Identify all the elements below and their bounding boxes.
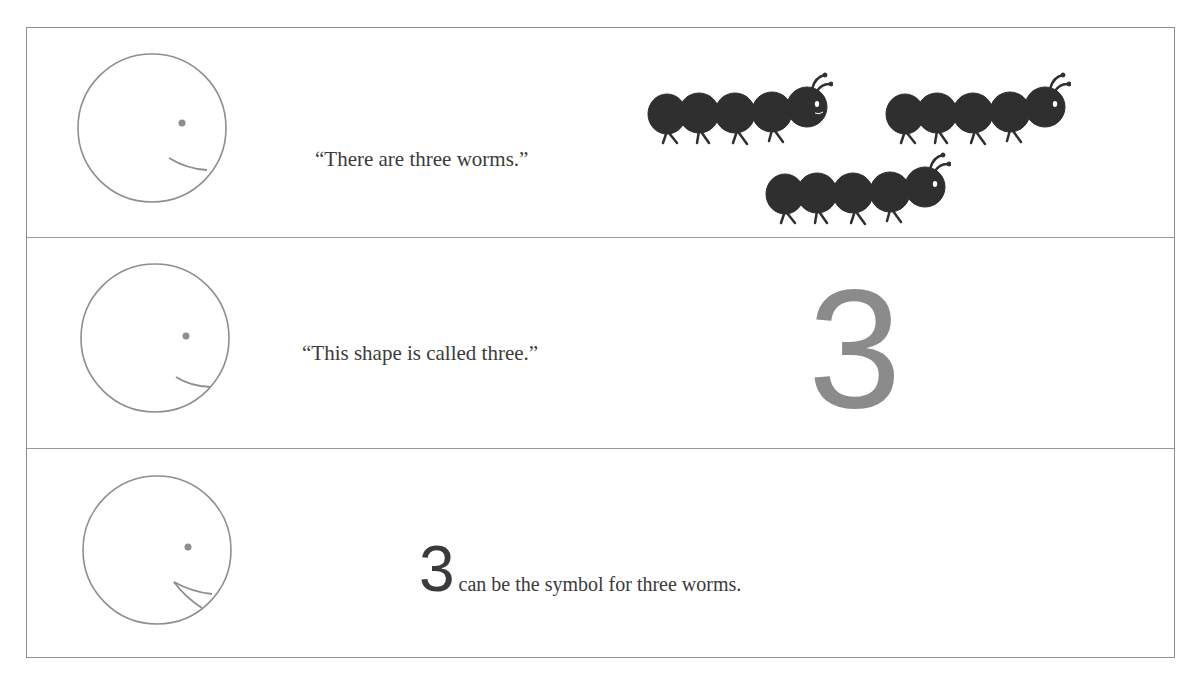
- open-mouth-smiling-face-icon: [80, 472, 240, 632]
- numeral-three-large: 3: [808, 265, 901, 433]
- numeral-three-symbol: 3: [419, 537, 455, 601]
- worm-icon: [647, 69, 833, 149]
- symbol-caption: can be the symbol for three worms.: [459, 573, 742, 596]
- illustration-frame: “There are three worms.”: [26, 27, 1175, 658]
- smiling-face-icon: [77, 50, 237, 210]
- row-symbol-for-three-worms: 3 can be the symbol for three worms.: [27, 449, 1174, 657]
- worm-icon: [765, 149, 951, 229]
- worm-icon: [885, 69, 1071, 149]
- caption-shape-called-three: “This shape is called three.”: [302, 341, 538, 366]
- caption-three-worms: “There are three worms.”: [315, 147, 528, 172]
- row-three-worms: “There are three worms.”: [27, 28, 1174, 238]
- row-shape-called-three: “This shape is called three.” 3: [27, 238, 1174, 449]
- symbol-statement: 3 can be the symbol for three worms.: [419, 537, 741, 601]
- smiling-face-icon: [80, 260, 240, 420]
